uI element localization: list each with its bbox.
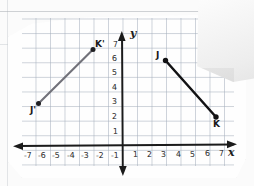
- x-axis: [13, 141, 237, 150]
- x-tick-neg-7: -7: [24, 152, 32, 160]
- point-j: [163, 58, 168, 63]
- x-tick-neg-4: -4: [67, 152, 75, 160]
- x-tick-neg-5: -5: [52, 152, 60, 160]
- point-label-k-prime: K': [95, 40, 105, 49]
- y-tick-6: 6: [112, 55, 117, 63]
- y-tick-7: 7: [113, 41, 118, 49]
- point-label-j-prime: J': [30, 106, 36, 115]
- y-axis-arrow-up-icon: [118, 31, 126, 41]
- point-j-prime: [36, 101, 41, 106]
- x-axis-arrow-left-icon: [13, 142, 23, 150]
- x-tick-neg-1: -1: [111, 152, 119, 160]
- segment-j-prime-k-prime: [36, 47, 96, 106]
- x-tick-neg-6: -6: [38, 152, 46, 160]
- y-tick-1: 1: [113, 128, 118, 136]
- y-tick-2: 2: [112, 113, 117, 121]
- y-axis-label: y: [130, 27, 136, 40]
- x-tick-1: 1: [133, 151, 138, 159]
- worksheet-screenshot: y x -7 -6 -5 -4 -3 -2 -1 1 2 3 4 5 6 7 1…: [0, 0, 254, 186]
- y-tick-4: 4: [112, 84, 117, 92]
- x-tick-7: 7: [219, 150, 224, 158]
- x-tick-6: 6: [205, 150, 210, 158]
- x-tick-2: 2: [147, 151, 152, 159]
- x-tick-3: 3: [161, 151, 166, 159]
- x-tick-neg-3: -3: [81, 152, 89, 160]
- x-axis-label: x: [228, 146, 235, 159]
- y-tick-3: 3: [112, 98, 117, 106]
- point-label-j: J: [156, 51, 159, 60]
- x-tick-neg-2: -2: [96, 152, 104, 160]
- y-tick-5: 5: [112, 69, 117, 77]
- y-axis-arrow-down-icon: [119, 166, 127, 176]
- x-tick-4: 4: [176, 151, 181, 159]
- point-label-k: K: [213, 120, 220, 129]
- y-axis: [118, 31, 127, 176]
- x-tick-5: 5: [190, 151, 195, 159]
